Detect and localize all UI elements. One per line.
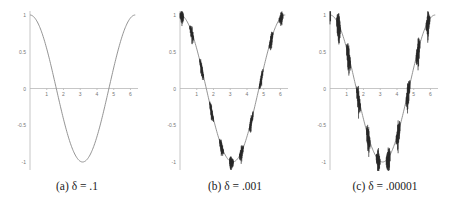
x-tick-label: 5 [112,91,115,97]
x-tick-label: 2 [62,91,65,97]
y-tick-label: 0.5 [19,49,26,55]
y-tick-label: -1 [22,159,27,165]
y-tick-label: -1 [322,159,327,165]
y-tick-label: 0.5 [319,49,326,55]
x-tick-label: 1 [195,91,198,97]
x-tick-label: 4 [246,91,249,97]
y-tick-label: -0.5 [317,122,326,128]
x-tick-label: 1 [45,91,48,97]
y-tick-label: -0.5 [17,122,26,128]
caption-a: (a) δ = .1 [2,180,152,192]
x-tick-label: 3 [79,91,82,97]
plot-c: 12345610.50-0.5-1 [300,0,455,175]
x-tick-label: 5 [412,91,415,97]
x-tick-label: 6 [129,91,132,97]
x-tick-label: 2 [362,91,365,97]
y-tick-label: 0 [323,86,326,92]
x-tick-label: 3 [229,91,232,97]
x-tick-label: 4 [96,91,99,97]
caption-c: (c) δ = .00001 [310,180,460,192]
x-tick-label: 4 [396,91,399,97]
y-tick-label: 0 [173,86,176,92]
plot-a: 12345610.50-0.5-1 [0,0,150,175]
y-tick-label: 1 [323,12,326,18]
y-tick-label: -0.5 [167,122,176,128]
x-tick-label: 6 [279,91,282,97]
x-tick-label: 5 [262,91,265,97]
plot-b: 12345610.50-0.5-1 [150,0,305,175]
x-tick-label: 2 [212,91,215,97]
y-tick-label: -1 [172,159,177,165]
y-tick-label: 0.5 [169,49,176,55]
x-tick-label: 3 [379,91,382,97]
y-tick-label: 1 [23,12,26,18]
y-tick-label: 1 [173,12,176,18]
caption-b: (b) δ = .001 [160,180,310,192]
x-tick-label: 1 [345,91,348,97]
y-tick-label: 0 [23,86,26,92]
x-tick-label: 6 [429,91,432,97]
